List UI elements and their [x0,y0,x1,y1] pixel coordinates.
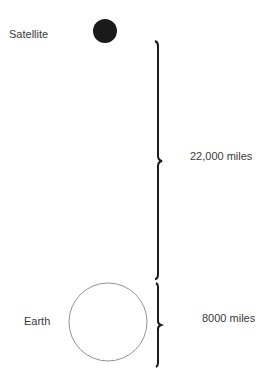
diameter-label: 8000 miles [202,312,255,324]
satellite-label: Satellite [9,28,48,40]
satellite-dot [93,19,117,43]
earth-label: Earth [24,315,50,327]
earth-circle [69,283,147,361]
distance-label: 22,000 miles [190,150,252,162]
distance-brace [155,41,162,279]
diameter-brace [156,283,161,367]
